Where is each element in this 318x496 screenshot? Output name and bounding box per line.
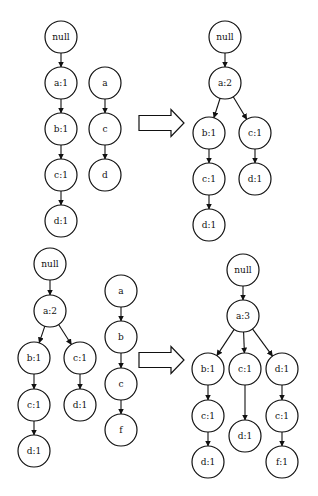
node-label: a	[118, 286, 124, 296]
node-label: c:1	[73, 353, 87, 363]
tree-node: b:1	[192, 353, 224, 385]
tree-node: a:2	[34, 295, 66, 327]
node-label: b	[118, 332, 124, 342]
edges-layer	[34, 53, 282, 446]
tree-node: a	[105, 275, 137, 307]
tree-node: c:1	[45, 159, 77, 191]
node-label: null	[216, 32, 233, 42]
node-label: d:1	[27, 446, 42, 456]
node-label: b:1	[202, 128, 217, 138]
tree-node: d:1	[229, 420, 261, 452]
tree-edge	[217, 329, 234, 355]
tree-edge	[214, 98, 220, 118]
tree-node: null	[34, 248, 66, 280]
node-label: a:2	[218, 78, 232, 88]
panel-p1-transaction: acd	[89, 67, 121, 191]
node-label: c:1	[202, 174, 216, 184]
node-label: b:1	[54, 124, 69, 134]
tree-node: d:1	[266, 353, 298, 385]
tree-node: f:1	[266, 446, 298, 478]
tree-node: d:1	[18, 435, 50, 467]
block-arrow-icon	[139, 110, 184, 137]
tree-node: b:1	[45, 113, 77, 145]
node-label: c	[102, 124, 107, 134]
tree-edge	[252, 329, 272, 356]
tree-edge	[59, 324, 72, 344]
block-arrow-icon	[139, 347, 184, 374]
node-label: c:1	[238, 364, 252, 374]
node-label: null	[234, 265, 251, 275]
node-label: a:1	[54, 78, 68, 88]
node-label: c:1	[54, 170, 68, 180]
tree-node: a	[89, 67, 121, 99]
tree-node: d:1	[64, 389, 96, 421]
tree-node: d:1	[239, 163, 271, 195]
node-label: c:1	[27, 400, 41, 410]
tree-node: f	[105, 414, 137, 446]
node-label: d:1	[54, 216, 69, 226]
tree-node: c	[105, 368, 137, 400]
node-label: b:1	[201, 364, 216, 374]
tree-node: a:3	[227, 300, 259, 332]
node-label: d:1	[202, 220, 217, 230]
tree-node: c	[89, 113, 121, 145]
tree-node: b:1	[193, 117, 225, 149]
diagram-canvas: nulla:1b:1c:1d:1acdnulla:2b:1c:1c:1d:1d:…	[0, 0, 318, 496]
node-label: d:1	[201, 457, 216, 467]
tree-node: a:1	[45, 67, 77, 99]
node-label: null	[52, 32, 69, 42]
node-label: null	[41, 259, 58, 269]
node-label: c:1	[275, 411, 289, 421]
tree-node: d:1	[45, 205, 77, 237]
tree-node: b	[105, 321, 137, 353]
fp-tree-diagram: nulla:1b:1c:1d:1acdnulla:2b:1c:1c:1d:1d:…	[0, 0, 318, 496]
panel-p1-result: nulla:2b:1c:1c:1d:1d:1	[193, 21, 271, 241]
tree-node: c:1	[239, 117, 271, 149]
tree-node: c:1	[18, 389, 50, 421]
tree-node: d:1	[193, 209, 225, 241]
tree-node: c:1	[64, 342, 96, 374]
node-label: a:3	[236, 311, 250, 321]
nodes-layer: nulla:1b:1c:1d:1acdnulla:2b:1c:1c:1d:1d:…	[18, 21, 298, 478]
node-label: c	[118, 379, 123, 389]
tree-node: null	[45, 21, 77, 53]
node-label: a:2	[43, 306, 57, 316]
node-label: d:1	[73, 400, 88, 410]
node-label: d	[102, 170, 108, 180]
node-label: d:1	[275, 364, 290, 374]
panel-p2-existing: nulla:2b:1c:1c:1d:1d:1	[18, 248, 96, 467]
tree-node: null	[209, 21, 241, 53]
node-label: b:1	[27, 353, 42, 363]
tree-node: c:1	[266, 400, 298, 432]
node-label: c:1	[201, 411, 215, 421]
node-label: c:1	[248, 128, 262, 138]
tree-node: a:2	[209, 67, 241, 99]
tree-edge	[233, 97, 247, 120]
tree-node: d	[89, 159, 121, 191]
tree-node: null	[227, 254, 259, 286]
panel-p1-existing: nulla:1b:1c:1d:1	[45, 21, 77, 237]
tree-node: b:1	[18, 342, 50, 374]
tree-edge	[244, 332, 245, 353]
tree-node: c:1	[193, 163, 225, 195]
tree-node: d:1	[192, 446, 224, 478]
node-label: f:1	[276, 457, 288, 467]
tree-node: c:1	[192, 400, 224, 432]
tree-node: c:1	[229, 353, 261, 385]
tree-edge	[39, 326, 45, 343]
node-label: d:1	[248, 174, 263, 184]
node-label: a	[102, 78, 108, 88]
block-arrows-layer	[139, 110, 184, 374]
node-label: d:1	[238, 431, 253, 441]
